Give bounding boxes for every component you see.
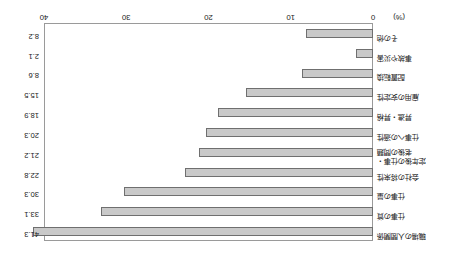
x-tick-label: 30 — [122, 13, 131, 22]
bar — [306, 29, 373, 38]
bar — [206, 128, 373, 137]
bar — [199, 148, 373, 157]
bar-row: 定年後の仕事・老後の問題21.2 — [44, 142, 373, 162]
x-tick-label: 20 — [204, 13, 213, 22]
bar-row: その他8.2 — [44, 23, 373, 43]
bar — [218, 108, 373, 117]
bar-row: 会社の将来性22.8 — [44, 162, 373, 182]
bar-row: 昇進・昇格18.9 — [44, 102, 373, 122]
category-label: 昇進・昇格 — [377, 113, 412, 121]
category-label: その他 — [377, 33, 398, 41]
value-label: 2.1 — [28, 52, 39, 61]
bar — [101, 207, 373, 216]
x-axis: 010203040 — [44, 6, 373, 22]
bar — [356, 49, 373, 58]
category-label: 定年後の仕事・老後の問題 — [377, 148, 426, 165]
bar-row: 配置転換8.6 — [44, 63, 373, 83]
value-label: 8.6 — [28, 71, 39, 80]
x-tick-label: 0 — [371, 13, 375, 22]
bar-row: 職場の人間関係41.3 — [44, 221, 373, 241]
value-label: 33.1 — [24, 210, 39, 219]
bar-chart-figure: 職場の人間関係41.3仕事の質33.1仕事の量30.3会社の将来性22.8定年後… — [0, 0, 449, 263]
value-label: 41.3 — [24, 230, 39, 239]
category-label: 仕事の質 — [377, 212, 405, 220]
value-label: 30.3 — [24, 190, 39, 199]
value-label: 8.2 — [28, 32, 39, 41]
category-label: 仕事への適性 — [377, 133, 419, 141]
category-label: 会社の将来性 — [377, 172, 419, 180]
value-label: 22.8 — [24, 171, 39, 180]
value-label: 15.5 — [24, 91, 39, 100]
category-label: 職場の人間関係 — [377, 232, 426, 240]
value-label: 21.2 — [24, 151, 39, 160]
category-label: 配置転換 — [377, 73, 405, 81]
x-tick-label: 10 — [286, 13, 295, 22]
bar — [246, 88, 373, 97]
bar — [124, 187, 373, 196]
bar — [302, 69, 373, 78]
value-label: 20.3 — [24, 131, 39, 140]
category-label: 雇用の安定性 — [377, 93, 419, 101]
category-label: 仕事の量 — [377, 192, 405, 200]
bar — [33, 227, 373, 236]
category-label: 事故や災害 — [377, 53, 412, 61]
bar-row: 仕事の量30.3 — [44, 182, 373, 202]
bar-row: 仕事の質33.1 — [44, 201, 373, 221]
bar-row: 事故や災害2.1 — [44, 43, 373, 63]
value-label: 18.9 — [24, 111, 39, 120]
bar — [185, 168, 373, 177]
bar-row: 雇用の安定性15.5 — [44, 82, 373, 102]
x-tick-label: 40 — [40, 13, 49, 22]
bar-row: 仕事への適性20.3 — [44, 122, 373, 142]
axis-unit-label: (%) — [393, 13, 405, 22]
